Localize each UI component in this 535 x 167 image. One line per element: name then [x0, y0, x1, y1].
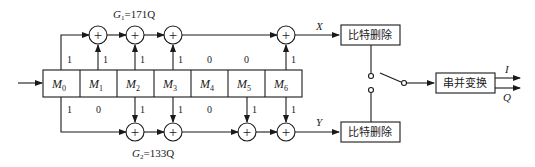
output-label-x: X	[315, 20, 324, 32]
bottom-connections	[61, 97, 339, 132]
register-cell-m0: M0	[51, 77, 66, 93]
tap-top-m4: 0	[207, 54, 212, 65]
tap-bottom-m4: 0	[207, 104, 212, 115]
puncture-label-top: 比特删除	[348, 28, 392, 42]
tap-bottom-m6: 1	[291, 104, 296, 115]
adder-plus: +	[169, 124, 177, 140]
register-cell-m1: M1	[88, 77, 103, 93]
register-cell-m4: M4	[199, 77, 214, 93]
puncture-label-bottom: 比特删除	[348, 125, 392, 139]
encoder-diagram: + + + + + + + + M0 M1 M2 M3 M4 M5 M6 1 1…	[0, 0, 535, 167]
output-label-y: Y	[316, 116, 324, 128]
adder-plus: +	[169, 27, 177, 43]
adder-plus: +	[131, 27, 139, 43]
register-cell-m3: M3	[162, 77, 177, 93]
adder-plus: +	[282, 124, 290, 140]
serial-parallel-label: 串并变换	[443, 76, 487, 90]
tap-bottom-m0: 1	[67, 104, 72, 115]
adder-plus: +	[131, 124, 139, 140]
tap-top-m2: 1	[140, 54, 145, 65]
register-cell-m5: M5	[236, 77, 251, 93]
tap-top-m3: 1	[178, 54, 183, 65]
register-cell-m6: M6	[273, 77, 288, 93]
tap-bottom-m1: 0	[96, 104, 101, 115]
tap-bottom-m2: 1	[140, 104, 145, 115]
generator-label-g1: G1=171Q	[113, 8, 155, 22]
tap-top-m1: 1	[103, 54, 108, 65]
adder-plus: +	[243, 124, 251, 140]
tap-top-m0: 1	[67, 54, 72, 65]
generator-label-g2: G2=133Q	[132, 147, 174, 161]
register-cell-m2: M2	[125, 77, 140, 93]
switch	[369, 45, 435, 122]
tap-bottom-m5: 1	[252, 104, 257, 115]
output-label-q: Q	[503, 91, 511, 103]
tap-bottom-m3: 1	[178, 104, 183, 115]
output-label-i: I	[504, 63, 510, 75]
tap-top-m6: 1	[291, 54, 296, 65]
tap-top-m5: 0	[244, 54, 249, 65]
adder-plus: +	[94, 27, 102, 43]
adder-plus: +	[282, 27, 290, 43]
